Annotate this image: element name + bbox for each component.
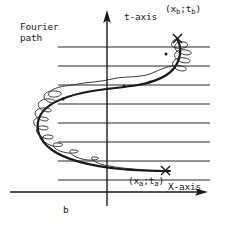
pb-close: ) xyxy=(195,3,201,14)
fourier-line1: Fourier xyxy=(20,21,59,32)
endpoint-label-a: (xa;ta) xyxy=(128,176,164,188)
fourier-line2: path xyxy=(20,32,42,43)
x-axis-label: X-axis xyxy=(168,182,201,193)
pa-open: (x xyxy=(128,175,139,186)
gridlines xyxy=(58,47,210,180)
pb-open: (x xyxy=(165,3,176,14)
t-axis xyxy=(103,10,111,206)
classical-smooth-path xyxy=(38,39,181,171)
pa-close: ) xyxy=(158,175,164,186)
fourier-path-annotation: Fourierpath xyxy=(20,22,59,43)
pb-mid: ;t xyxy=(180,3,191,14)
figure-caption-letter: b xyxy=(63,205,69,216)
pa-mid: ;t xyxy=(143,175,154,186)
endpoint-label-b: (xb;tb) xyxy=(165,4,201,16)
fourier-path-figure: Fourierpath t-axis X-axis (xb;tb) (xa;ta… xyxy=(0,0,227,225)
t-axis-label: t-axis xyxy=(124,12,157,23)
